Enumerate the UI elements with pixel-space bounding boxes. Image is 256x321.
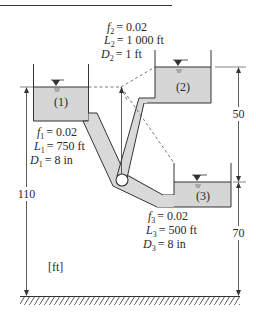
pipe-3-properties: f3= 0.02 L3= 500 ft D3= 8 in: [142, 209, 197, 253]
reservoir-1: (1): [34, 64, 89, 121]
dimension-50-label: 50: [233, 107, 245, 121]
three-reservoir-diagram: (1) (2) (3): [0, 0, 256, 321]
reservoir-1-label: (1): [54, 95, 68, 109]
dimension-50: 50: [215, 67, 250, 182]
svg-text:D3= 8 in: D3= 8 in: [142, 237, 186, 253]
reservoir-2-label: (2): [176, 80, 190, 94]
reservoir-3-label: (3): [196, 189, 210, 203]
dimension-70-label: 70: [233, 226, 245, 240]
svg-text:D1= 8 in: D1= 8 in: [29, 153, 73, 169]
dimension-110-label: 110: [18, 187, 36, 201]
junction-node: [116, 174, 128, 186]
pipe-1-properties: f1= 0.02 L1= 750 ft D1= 8 in: [29, 125, 85, 169]
svg-text:D2= 1 ft: D2= 1 ft: [100, 47, 142, 63]
units-label: [ft]: [48, 260, 63, 274]
reservoir-2: (2): [144, 50, 211, 103]
ground-datum: [20, 297, 240, 306]
